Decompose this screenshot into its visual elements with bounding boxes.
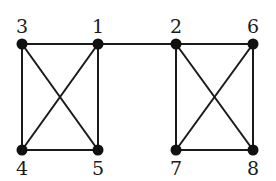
node-5	[93, 145, 104, 156]
node-label-2: 2	[170, 15, 182, 37]
nodes-group	[17, 39, 259, 156]
node-label-4: 4	[16, 157, 28, 179]
edges-group	[22, 44, 253, 150]
labels-group: 12345678	[16, 15, 259, 179]
node-3	[17, 39, 28, 50]
node-label-6: 6	[247, 15, 259, 37]
node-2	[171, 39, 182, 50]
node-4	[17, 145, 28, 156]
node-1	[93, 39, 104, 50]
node-label-3: 3	[16, 15, 28, 37]
node-8	[248, 145, 259, 156]
node-label-8: 8	[247, 157, 259, 179]
node-7	[171, 145, 182, 156]
graph-diagram: 12345678	[0, 0, 276, 181]
node-label-1: 1	[92, 15, 104, 37]
node-label-5: 5	[92, 157, 104, 179]
node-label-7: 7	[170, 157, 182, 179]
node-6	[248, 39, 259, 50]
